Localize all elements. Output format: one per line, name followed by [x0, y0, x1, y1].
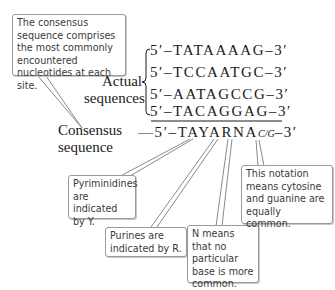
callout-consensus-definition: The consensus sequence comprises the mos…: [12, 14, 126, 76]
sequence-2: 5′–TCCAATGC–3′: [150, 64, 288, 81]
consensus-label-line1: Consensus: [58, 122, 122, 139]
sequence-1: 5′–TATAAAAG–3′: [150, 42, 288, 59]
consensus-prefix: —5′–TAYARNA: [138, 124, 258, 140]
callout-n-means: N means that no particular base is more …: [187, 225, 259, 283]
consensus-sequence: —5′–TAYARNAC/G–3′: [138, 124, 298, 141]
callout-pyrimidines: Pyriminidines are indicated by Y.: [68, 175, 136, 219]
consensus-cg-notation: C/G: [258, 128, 275, 139]
callout-cg-notation: This notation means cytosine and guanine…: [241, 165, 333, 224]
callout-purines: Purines are indicated by R.: [105, 227, 187, 257]
actual-sequences-label: Actual sequences: [84, 73, 142, 107]
consensus-suffix: –3′: [275, 124, 298, 140]
consensus-sequence-label: Consensus sequence: [58, 122, 122, 156]
sequence-3: 5′–AATAGCCG–3′: [150, 86, 289, 103]
actual-label-line2: sequences: [84, 90, 142, 107]
sequence-4: 5′–TACAGGAG–3′: [150, 103, 292, 120]
consensus-label-line2: sequence: [58, 139, 122, 156]
actual-label-line1: Actual: [84, 73, 142, 90]
